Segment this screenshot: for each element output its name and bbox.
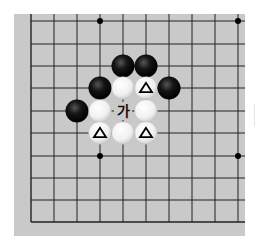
star-point — [235, 153, 241, 159]
star-point — [97, 153, 103, 159]
white-stone — [89, 100, 112, 123]
black-stone — [89, 77, 112, 100]
star-point — [97, 18, 103, 24]
black-stone — [135, 55, 158, 78]
white-stone — [112, 122, 135, 145]
board-labels: 가 — [114, 102, 132, 120]
stones — [66, 55, 181, 145]
white-stone — [135, 100, 158, 123]
point-label: 가 — [117, 103, 130, 119]
white-stone — [112, 77, 135, 100]
star-point — [235, 18, 241, 24]
white-stone — [89, 122, 112, 145]
black-stone — [112, 55, 135, 78]
white-stone — [135, 77, 158, 100]
white-stone — [135, 122, 158, 145]
scan-artifact — [254, 104, 255, 126]
go-board-diagram: 가 — [0, 0, 260, 244]
black-stone — [66, 100, 89, 123]
black-stone — [158, 77, 181, 100]
